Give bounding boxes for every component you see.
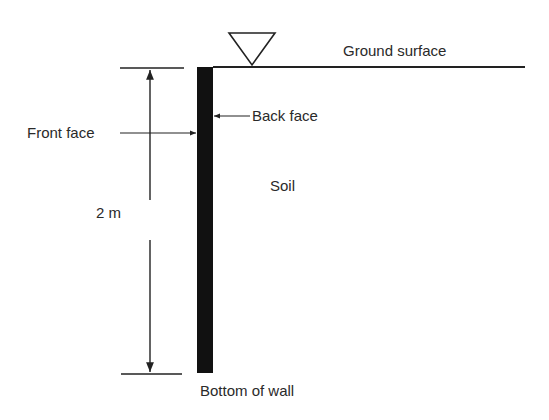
height-dimension-label: 2 m	[96, 204, 121, 221]
wall	[197, 67, 213, 373]
inverted-triangle-icon	[229, 33, 275, 65]
ground-surface-label: Ground surface	[343, 42, 446, 59]
front-face-label: Front face	[27, 124, 95, 141]
soil-label: Soil	[270, 177, 295, 194]
bottom-of-wall-label: Bottom of wall	[200, 382, 294, 399]
retaining-wall-diagram	[0, 0, 549, 420]
back-face-label: Back face	[252, 107, 318, 124]
